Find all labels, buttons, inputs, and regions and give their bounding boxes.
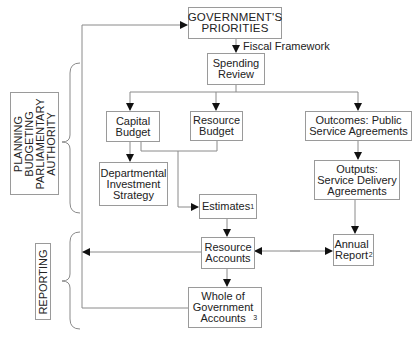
phase-label-reporting: REPORTING — [35, 243, 51, 320]
node-outputs-text: Outputs: Service Delivery Agreements — [317, 164, 396, 197]
node-departmental-investment-strategy: Departmental Investment Strategy — [99, 162, 168, 206]
node-capital-budget: Capital Budget — [106, 111, 160, 142]
node-estimates-text: Estimates — [202, 201, 250, 212]
node-estimates: Estimates1 — [199, 194, 257, 219]
node-outcomes: Outcomes: Public Service Agreements — [305, 111, 412, 141]
node-government-priorities-text: GOVERNMENT'S PRIORITIES — [188, 12, 283, 34]
node-whole-of-government-accounts: Whole of Government Accounts3 — [188, 287, 262, 328]
phase-label-reporting-text: REPORTING — [38, 249, 49, 314]
node-resource-accounts-text: Resource Accounts — [204, 242, 251, 264]
node-annual-report: Annual Report2 — [333, 234, 374, 266]
node-departmental-investment-strategy-text: Departmental Investment Strategy — [100, 168, 166, 201]
phase-label-planning: PLANNING BUDGETING PARLIAMENTARY AUTHORI… — [10, 92, 59, 195]
node-outputs: Outputs: Service Delivery Agreements — [314, 160, 400, 200]
node-resource-budget-text: Resource Budget — [193, 115, 240, 137]
node-resource-accounts: Resource Accounts — [201, 237, 255, 269]
node-outcomes-text: Outcomes: Public Service Agreements — [309, 115, 407, 137]
node-whole-of-government-accounts-text: Whole of Government Accounts — [193, 291, 254, 324]
node-spending-review-text: Spending Review — [213, 58, 260, 80]
edge-label-fiscal-framework: Fiscal Framework — [243, 40, 330, 52]
node-spending-review: Spending Review — [207, 53, 265, 85]
phase-label-planning-text: PLANNING BUDGETING PARLIAMENTARY AUTHORI… — [13, 98, 57, 189]
node-annual-report-text: Annual Report — [334, 239, 368, 261]
node-government-priorities: GOVERNMENT'S PRIORITIES — [188, 7, 282, 39]
node-resource-budget: Resource Budget — [190, 111, 243, 141]
node-capital-budget-text: Capital Budget — [116, 116, 151, 138]
